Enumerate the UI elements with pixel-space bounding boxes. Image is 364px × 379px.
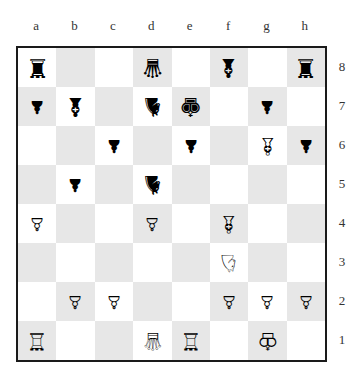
- square-f6[interactable]: [210, 126, 248, 165]
- black-king-icon[interactable]: ♚: [179, 94, 202, 120]
- square-a8[interactable]: ♜: [18, 48, 56, 87]
- square-e7[interactable]: ♚: [172, 87, 210, 126]
- square-c2[interactable]: ♙: [95, 282, 133, 321]
- square-d2[interactable]: [133, 282, 171, 321]
- rank-labels: 8 7 6 5 4 3 2 1: [330, 47, 354, 360]
- square-h2[interactable]: ♙: [287, 282, 325, 321]
- square-g6[interactable]: ♗: [248, 126, 286, 165]
- square-d5[interactable]: ♞: [133, 165, 171, 204]
- square-f3[interactable]: ♘: [210, 243, 248, 282]
- square-e6[interactable]: ♟: [172, 126, 210, 165]
- black-rook-icon[interactable]: ♜: [294, 55, 317, 81]
- white-bishop-icon[interactable]: ♗: [257, 134, 279, 158]
- square-d1[interactable]: ♕: [133, 321, 171, 360]
- white-queen-icon[interactable]: ♕: [142, 329, 164, 353]
- square-d7[interactable]: ♞: [133, 87, 171, 126]
- square-f7[interactable]: [210, 87, 248, 126]
- square-h5[interactable]: [287, 165, 325, 204]
- square-b5[interactable]: ♟: [56, 165, 94, 204]
- square-a6[interactable]: [18, 126, 56, 165]
- square-b8[interactable]: [56, 48, 94, 87]
- white-bishop-icon[interactable]: ♗: [218, 212, 240, 236]
- black-rook-icon[interactable]: ♜: [26, 55, 49, 81]
- square-c5[interactable]: [95, 165, 133, 204]
- square-c1[interactable]: [95, 321, 133, 360]
- file-label-b: b: [55, 18, 93, 38]
- square-b7[interactable]: ♝: [56, 87, 94, 126]
- square-d6[interactable]: [133, 126, 171, 165]
- square-h8[interactable]: ♜: [287, 48, 325, 87]
- square-b4[interactable]: [56, 204, 94, 243]
- black-pawn-icon[interactable]: ♟: [67, 176, 83, 194]
- square-a2[interactable]: [18, 282, 56, 321]
- rank-label-7: 7: [330, 86, 354, 125]
- black-pawn-icon[interactable]: ♟: [183, 137, 199, 155]
- square-f5[interactable]: [210, 165, 248, 204]
- square-b1[interactable]: [56, 321, 94, 360]
- file-label-f: f: [209, 18, 247, 38]
- square-f4[interactable]: ♗: [210, 204, 248, 243]
- white-pawn-icon[interactable]: ♙: [298, 293, 314, 311]
- square-d8[interactable]: ♛: [133, 48, 171, 87]
- rank-label-6: 6: [330, 125, 354, 164]
- square-a3[interactable]: [18, 243, 56, 282]
- square-g2[interactable]: ♙: [248, 282, 286, 321]
- square-f2[interactable]: ♙: [210, 282, 248, 321]
- square-f1[interactable]: [210, 321, 248, 360]
- white-pawn-icon[interactable]: ♙: [106, 293, 122, 311]
- square-d3[interactable]: [133, 243, 171, 282]
- black-bishop-icon[interactable]: ♝: [64, 94, 87, 120]
- square-h7[interactable]: [287, 87, 325, 126]
- square-e3[interactable]: [172, 243, 210, 282]
- white-pawn-icon[interactable]: ♙: [221, 293, 237, 311]
- white-pawn-icon[interactable]: ♙: [29, 215, 45, 233]
- white-rook-icon[interactable]: ♖: [26, 329, 48, 353]
- square-f8[interactable]: ♝: [210, 48, 248, 87]
- white-pawn-icon[interactable]: ♙: [67, 293, 83, 311]
- black-pawn-icon[interactable]: ♟: [259, 98, 275, 116]
- rank-label-5: 5: [330, 164, 354, 203]
- square-c7[interactable]: [95, 87, 133, 126]
- black-pawn-icon[interactable]: ♟: [298, 137, 314, 155]
- file-label-d: d: [132, 18, 170, 38]
- square-h1[interactable]: [287, 321, 325, 360]
- square-e4[interactable]: [172, 204, 210, 243]
- square-g4[interactable]: [248, 204, 286, 243]
- black-knight-icon[interactable]: ♞: [141, 172, 164, 198]
- white-king-icon[interactable]: ♔: [257, 329, 279, 353]
- square-c8[interactable]: [95, 48, 133, 87]
- square-e1[interactable]: ♖: [172, 321, 210, 360]
- white-knight-icon[interactable]: ♘: [218, 251, 240, 275]
- square-h6[interactable]: ♟: [287, 126, 325, 165]
- square-g5[interactable]: [248, 165, 286, 204]
- square-e2[interactable]: [172, 282, 210, 321]
- square-g3[interactable]: [248, 243, 286, 282]
- square-g8[interactable]: [248, 48, 286, 87]
- square-b6[interactable]: [56, 126, 94, 165]
- square-a7[interactable]: ♟: [18, 87, 56, 126]
- square-h3[interactable]: [287, 243, 325, 282]
- black-queen-icon[interactable]: ♛: [141, 55, 164, 81]
- black-knight-icon[interactable]: ♞: [141, 94, 164, 120]
- square-c4[interactable]: [95, 204, 133, 243]
- white-pawn-icon[interactable]: ♙: [144, 215, 160, 233]
- square-d4[interactable]: ♙: [133, 204, 171, 243]
- white-pawn-icon[interactable]: ♙: [259, 293, 275, 311]
- square-c3[interactable]: [95, 243, 133, 282]
- square-a1[interactable]: ♖: [18, 321, 56, 360]
- square-e8[interactable]: [172, 48, 210, 87]
- square-a4[interactable]: ♙: [18, 204, 56, 243]
- file-label-e: e: [171, 18, 209, 38]
- black-pawn-icon[interactable]: ♟: [106, 137, 122, 155]
- square-g7[interactable]: ♟: [248, 87, 286, 126]
- black-bishop-icon[interactable]: ♝: [217, 55, 240, 81]
- square-g1[interactable]: ♔: [248, 321, 286, 360]
- black-pawn-icon[interactable]: ♟: [29, 98, 45, 116]
- square-e5[interactable]: [172, 165, 210, 204]
- square-a5[interactable]: [18, 165, 56, 204]
- square-b2[interactable]: ♙: [56, 282, 94, 321]
- square-c6[interactable]: ♟: [95, 126, 133, 165]
- white-rook-icon[interactable]: ♖: [180, 329, 202, 353]
- square-h4[interactable]: [287, 204, 325, 243]
- square-b3[interactable]: [56, 243, 94, 282]
